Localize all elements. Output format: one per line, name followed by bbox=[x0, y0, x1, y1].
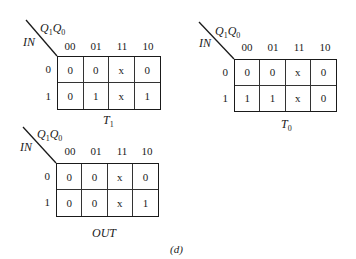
kmap-cell: 0 bbox=[311, 60, 336, 86]
row-header: 0 bbox=[218, 67, 228, 78]
kmap-cell: 1 bbox=[133, 190, 158, 216]
column-header: 01 bbox=[260, 42, 286, 53]
row-variable-label: IN bbox=[199, 37, 211, 49]
kmap-caption: OUT bbox=[92, 227, 116, 242]
kmap-cell: 0 bbox=[57, 164, 82, 190]
row-header: 0 bbox=[40, 171, 50, 182]
column-header: 10 bbox=[312, 42, 338, 53]
kmap-cell: x bbox=[108, 190, 133, 216]
kmap-cell: 1 bbox=[235, 86, 260, 112]
figure-label: (d) bbox=[170, 244, 183, 255]
column-header: 11 bbox=[109, 146, 135, 157]
kmap-caption: T0 bbox=[281, 118, 292, 133]
kmap-cell: 0 bbox=[235, 60, 260, 86]
kmap-cell: x bbox=[286, 60, 311, 86]
column-variable-label: Q1Q0 bbox=[37, 128, 62, 143]
column-header: 11 bbox=[286, 42, 312, 53]
column-header: 01 bbox=[83, 146, 109, 157]
kmap-cell: 1 bbox=[260, 86, 285, 112]
row-header: 1 bbox=[218, 93, 228, 104]
column-header: 00 bbox=[57, 146, 83, 157]
row-variable-label: IN bbox=[20, 141, 32, 153]
kmap-cell: 0 bbox=[82, 164, 107, 190]
kmap-grid: 0 0 x 0 1 1 x 0 bbox=[234, 59, 337, 112]
kmap-cell: 0 bbox=[133, 164, 158, 190]
kmap-cell: x bbox=[108, 164, 133, 190]
kmap-cell: x bbox=[286, 86, 311, 112]
kmap-out: Q1Q0 IN 00 01 11 10 0 1 0 0 x 0 0 0 x 1 … bbox=[0, 0, 180, 240]
column-header: 10 bbox=[134, 146, 160, 157]
row-header: 1 bbox=[40, 197, 50, 208]
kmap-grid: 0 0 x 0 0 0 x 1 bbox=[56, 163, 159, 217]
kmap-cell: 0 bbox=[311, 86, 336, 112]
column-variable-label: Q1Q0 bbox=[215, 25, 240, 40]
kmap-cell: 0 bbox=[260, 60, 285, 86]
kmap-cell: 0 bbox=[82, 190, 107, 216]
column-header: 00 bbox=[234, 42, 260, 53]
kmap-cell: 0 bbox=[57, 190, 82, 216]
